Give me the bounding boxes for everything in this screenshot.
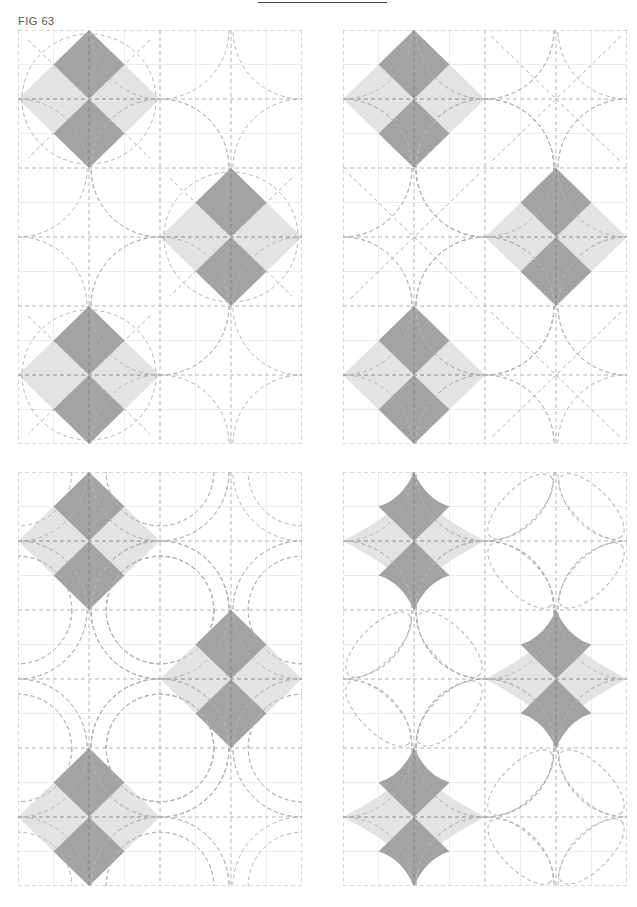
star-block: [18, 748, 160, 886]
star-block: [343, 30, 485, 168]
star-block: [160, 610, 302, 748]
star-block: [485, 168, 627, 306]
star-block: [343, 748, 485, 886]
star-block: [18, 472, 160, 610]
panel-top-right: [343, 30, 627, 444]
star-block: [343, 472, 485, 610]
star-block: [343, 306, 485, 444]
panel-bottom-right: [343, 472, 627, 886]
figure-label: FIG 63: [18, 15, 55, 27]
top-rule: [258, 2, 387, 3]
star-block: [485, 610, 627, 748]
panel-top-left: [18, 30, 302, 444]
panel-bottom-left: [18, 472, 302, 886]
